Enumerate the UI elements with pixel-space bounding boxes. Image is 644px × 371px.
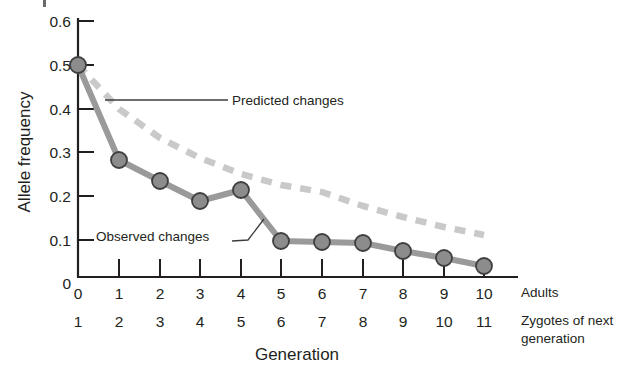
x-tick-label-zygotes-6: 6 <box>277 313 286 330</box>
x-tick-label-adults-2: 2 <box>156 285 165 302</box>
y-tick-label-0.1: 0.1 <box>49 232 71 249</box>
top-edge-artifact <box>43 0 46 7</box>
x-tick-label-zygotes-5: 5 <box>237 313 246 330</box>
x-tick-label-adults-9: 9 <box>440 285 449 302</box>
x-tick-label-zygotes-2: 2 <box>115 313 124 330</box>
allele-frequency-chart: 0.6 0.5 0.4 0.3 0.2 0.1 0 <box>0 0 644 371</box>
x-tick-label-zygotes-10: 10 <box>435 313 453 330</box>
data-point-gen-3 <box>192 193 208 209</box>
data-point-gen-2 <box>152 173 168 189</box>
x-tick-label-zygotes-4: 4 <box>196 313 205 330</box>
y-tick-label-0.5: 0.5 <box>49 57 71 74</box>
axis-row-label-adults: Adults <box>521 285 559 300</box>
y-tick-label-0.6: 0.6 <box>49 13 71 30</box>
x-tick-label-adults-8: 8 <box>399 285 408 302</box>
data-point-gen-6 <box>314 234 330 250</box>
data-point-gen-1 <box>111 152 127 168</box>
data-point-gen-8 <box>395 243 411 259</box>
predicted-changes-label: Predicted changes <box>232 93 344 108</box>
x-tick-label-zygotes-9: 9 <box>399 313 408 330</box>
data-point-gen-5 <box>273 233 289 249</box>
chart-svg: 0.6 0.5 0.4 0.3 0.2 0.1 0 <box>0 0 644 371</box>
x-tick-label-adults-0: 0 <box>74 285 83 302</box>
data-point-gen-4 <box>233 182 249 198</box>
axis-row-label-zygotes-line2: generation <box>521 331 585 346</box>
observed-changes-label: Observed changes <box>96 229 210 244</box>
x-tick-label-zygotes-7: 7 <box>318 313 327 330</box>
x-tick-label-adults-4: 4 <box>237 285 246 302</box>
data-point-gen-10 <box>476 258 492 274</box>
y-tick-label-0: 0 <box>62 275 71 292</box>
y-axis-title: Allele frequency <box>15 91 34 212</box>
x-tick-label-zygotes-1: 1 <box>74 313 83 330</box>
x-axis-title: Generation <box>255 345 339 364</box>
x-tick-label-adults-6: 6 <box>318 285 327 302</box>
x-tick-label-adults-7: 7 <box>359 285 368 302</box>
y-tick-label-0.4: 0.4 <box>49 101 71 118</box>
x-tick-label-zygotes-8: 8 <box>359 313 368 330</box>
x-tick-label-zygotes-3: 3 <box>156 313 165 330</box>
x-tick-label-adults-5: 5 <box>277 285 286 302</box>
data-point-gen-9 <box>436 250 452 266</box>
x-tick-label-adults-10: 10 <box>475 285 493 302</box>
data-point-gen-0 <box>70 57 86 73</box>
axis-row-label-zygotes-line1: Zygotes of next <box>521 313 614 328</box>
y-tick-label-0.3: 0.3 <box>49 144 71 161</box>
y-tick-label-0.2: 0.2 <box>49 188 71 205</box>
x-tick-label-adults-1: 1 <box>115 285 124 302</box>
x-tick-label-zygotes-11: 11 <box>476 313 492 330</box>
x-tick-label-adults-3: 3 <box>196 285 205 302</box>
data-point-gen-7 <box>355 235 371 251</box>
